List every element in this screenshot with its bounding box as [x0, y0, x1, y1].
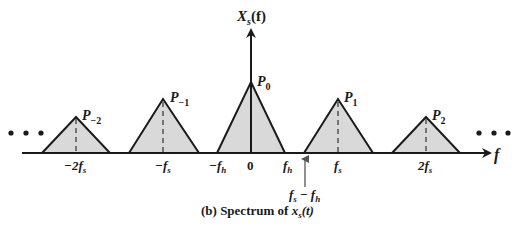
tick-minus-2fs: −2fs: [64, 158, 87, 175]
figure-caption: (b) Spectrum of xs(t): [201, 203, 314, 220]
pulse-p-1: [304, 99, 373, 153]
label-p-minus-1: P−1: [170, 90, 189, 108]
x-axis-label: f: [494, 146, 501, 164]
right-ellipsis: [476, 130, 510, 135]
tick-fh: fh: [283, 158, 292, 175]
label-p-0: P0: [257, 74, 271, 92]
label-p-1: P1: [344, 90, 358, 108]
label-p-2: P2: [432, 108, 446, 126]
spectrum-diagram: Xs(f) f P−2 P−1 P0 P1 P2 −2fs −fs −fh 0 …: [0, 0, 522, 229]
tick-fs: fs: [334, 158, 342, 175]
left-ellipsis: [8, 130, 43, 135]
tick-fs-minus-fh: fs − fh: [289, 187, 320, 204]
tick-minus-fs: −fs: [155, 158, 171, 175]
pulse-p-2: [392, 117, 460, 153]
tick-minus-fh: −fh: [209, 158, 226, 175]
tick-zero: 0: [247, 158, 254, 173]
y-axis-label: Xs(f): [236, 8, 266, 27]
tick-2fs: 2fs: [417, 158, 433, 175]
label-p-minus-2: P−2: [82, 108, 101, 126]
